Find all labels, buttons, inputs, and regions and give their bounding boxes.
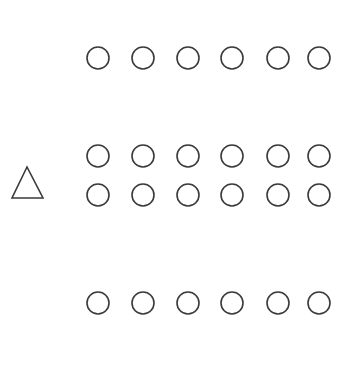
row-3 <box>87 184 330 206</box>
circle-shape <box>87 184 109 206</box>
circle-shape <box>177 184 199 206</box>
circle-shape <box>221 292 243 314</box>
circle-shape <box>221 47 243 69</box>
circle-shape <box>177 292 199 314</box>
triangle-shape <box>12 167 43 198</box>
circle-shape <box>308 145 330 167</box>
circle-shape <box>267 47 289 69</box>
circle-shape <box>177 47 199 69</box>
shape-diagram <box>0 0 349 367</box>
circle-shape <box>267 184 289 206</box>
circle-shape <box>177 145 199 167</box>
circle-shape <box>221 184 243 206</box>
circle-shape <box>308 184 330 206</box>
circle-shape <box>132 47 154 69</box>
row-2 <box>87 145 330 167</box>
row-4 <box>87 292 330 314</box>
circle-shape <box>308 47 330 69</box>
circle-shape <box>308 292 330 314</box>
circle-shape <box>87 145 109 167</box>
circle-grid <box>87 47 330 314</box>
circle-shape <box>87 292 109 314</box>
circle-shape <box>132 145 154 167</box>
circle-shape <box>221 145 243 167</box>
circle-shape <box>267 145 289 167</box>
circle-shape <box>132 292 154 314</box>
circle-shape <box>132 184 154 206</box>
circle-shape <box>267 292 289 314</box>
row-1 <box>87 47 330 69</box>
circle-shape <box>87 47 109 69</box>
